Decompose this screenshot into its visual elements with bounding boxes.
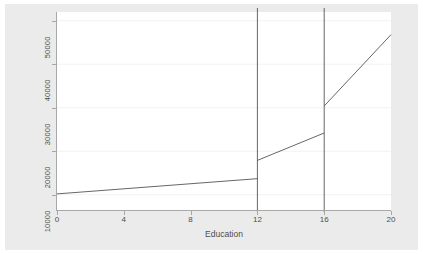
- x-tick-label: 12: [253, 215, 262, 224]
- y-tick-label: 50000: [44, 36, 53, 58]
- x-tick-label: 20: [387, 215, 396, 224]
- x-tick-label: 8: [188, 215, 192, 224]
- figure-right-margin: [418, 0, 423, 254]
- x-tick-label: 4: [122, 215, 126, 224]
- x-tick-label: 16: [320, 215, 329, 224]
- plot-area: [57, 12, 391, 210]
- data-line-segment-2: [324, 35, 391, 106]
- y-tick-mark: [52, 21, 57, 22]
- y-tick-label: 40000: [44, 80, 53, 102]
- y-axis-line: [56, 12, 57, 211]
- y-tick-mark: [52, 108, 57, 109]
- x-axis-title: Education: [205, 229, 243, 239]
- y-tick-label: 30000: [44, 123, 53, 145]
- data-line-segment-0: [57, 179, 257, 194]
- y-tick-mark: [52, 64, 57, 65]
- data-line-segment-1: [257, 133, 324, 160]
- y-tick-label: 20000: [44, 167, 53, 189]
- plot-canvas: [57, 12, 391, 210]
- y-tick-mark: [52, 195, 57, 196]
- x-axis-line: [56, 210, 391, 211]
- chart-figure: 1000020000300004000050000 048121620 Adju…: [0, 0, 423, 254]
- figure-left-margin: [0, 0, 5, 254]
- y-tick-mark: [52, 151, 57, 152]
- y-tick-label: 10000: [44, 210, 53, 232]
- x-tick-label: 0: [55, 215, 59, 224]
